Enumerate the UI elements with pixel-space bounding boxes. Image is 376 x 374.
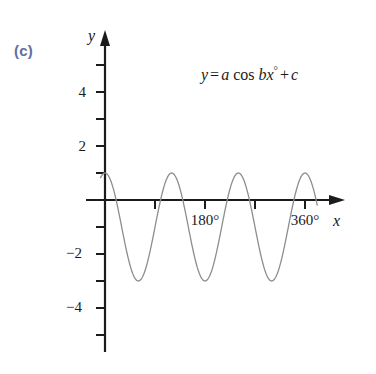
- figure-container: (c) y=a cos bx°+c y x 4 2 −2 −4 180° 360…: [0, 0, 376, 374]
- y-tick-label-2: 2: [56, 138, 86, 155]
- y-tick-label-4: 4: [56, 84, 86, 101]
- y-axis-label: y: [88, 27, 95, 45]
- equation-function: cos: [233, 66, 254, 83]
- equation-variable: x: [266, 66, 273, 83]
- y-axis-arrowhead: [100, 30, 110, 46]
- plot-area: [0, 0, 376, 374]
- equation-plus: +: [278, 66, 291, 83]
- part-label: (c): [14, 42, 33, 59]
- x-axis-arrowhead: [329, 195, 345, 205]
- x-axis-ticks: [155, 200, 305, 209]
- equation-coef-a: a: [221, 66, 229, 83]
- equation-coef-c: c: [291, 66, 298, 83]
- y-tick-label-neg4: −4: [52, 299, 82, 316]
- y-tick-label-neg2: −2: [52, 245, 82, 262]
- equation-annotation: y=a cos bx°+c: [201, 66, 298, 84]
- x-tick-label-180: 180°: [175, 212, 235, 229]
- x-tick-label-360: 360°: [275, 212, 335, 229]
- equation-equals: =: [208, 66, 221, 83]
